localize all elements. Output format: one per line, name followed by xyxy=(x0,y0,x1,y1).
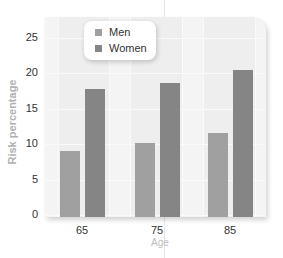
bar-men-85 xyxy=(208,133,228,217)
women-swatch-icon xyxy=(95,45,102,52)
x-tick-label: 65 xyxy=(67,224,97,236)
y-tick-label: 10 xyxy=(20,137,38,149)
gridline xyxy=(58,17,59,217)
y-tick-label: 5 xyxy=(20,173,38,185)
men-swatch-icon xyxy=(95,29,102,36)
legend-label: Women xyxy=(109,42,147,54)
x-tick-label: 75 xyxy=(142,224,172,236)
gridline xyxy=(203,17,204,217)
legend: Men Women xyxy=(84,21,156,60)
gridline xyxy=(182,17,183,217)
x-axis-label: Age xyxy=(140,237,180,248)
grid-band xyxy=(255,17,266,217)
legend-label: Men xyxy=(109,26,130,38)
y-tick-label: 15 xyxy=(20,102,38,114)
bar-men-75 xyxy=(135,143,155,217)
bar-women-75 xyxy=(160,83,180,217)
x-tick-label: 85 xyxy=(215,224,245,236)
y-tick-label: 20 xyxy=(20,66,38,78)
bar-men-65 xyxy=(60,151,80,217)
y-axis-label: Risk percentage xyxy=(6,72,18,172)
y-tick-label: 0 xyxy=(20,208,38,220)
bar-women-65 xyxy=(85,89,105,217)
legend-item-women: Women xyxy=(95,42,147,54)
bar-women-85 xyxy=(233,70,253,217)
gridline xyxy=(255,17,256,217)
grid-band xyxy=(45,17,58,217)
grid-band xyxy=(182,17,203,217)
legend-item-men: Men xyxy=(95,26,130,38)
y-tick-label: 25 xyxy=(20,31,38,43)
